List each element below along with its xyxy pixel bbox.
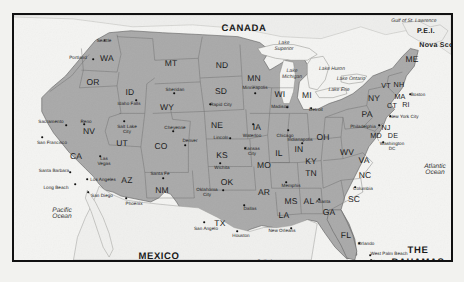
city-marker-waterloo bbox=[252, 123, 254, 125]
city-marker-san-francisco bbox=[41, 136, 43, 138]
city-marker-rapid-city bbox=[209, 103, 211, 105]
city-marker-santa-barbara bbox=[69, 171, 71, 173]
city-marker-columbia bbox=[354, 186, 356, 188]
city-marker-san-diego bbox=[87, 191, 89, 193]
city-marker-portland bbox=[92, 58, 94, 60]
city-marker-houston bbox=[236, 230, 238, 232]
city-marker-indianapolis bbox=[301, 142, 303, 144]
city-marker-madison bbox=[286, 106, 288, 108]
city-marker-detroit bbox=[310, 107, 312, 109]
city-marker-new-york-city bbox=[389, 115, 391, 117]
city-marker-santa-fe bbox=[162, 177, 164, 179]
city-marker-memphis bbox=[285, 181, 287, 183]
city-marker-boston bbox=[409, 93, 411, 95]
water-label-gulf-of-mexico: Gulf ofMexico bbox=[256, 260, 272, 262]
map-figure: CANADAMEXICOTHEBAHAMASP.E.I.Nova ScotiaG… bbox=[12, 13, 453, 262]
city-marker-sheridan bbox=[173, 92, 175, 94]
city-marker-sacramento bbox=[65, 124, 67, 126]
city-marker-denver bbox=[184, 144, 186, 146]
city-marker-wichita bbox=[219, 162, 221, 164]
map-canvas bbox=[14, 15, 451, 260]
city-marker-chicago bbox=[287, 129, 289, 131]
city-marker-las-vegas bbox=[99, 155, 101, 157]
city-marker-oklahoma-city bbox=[222, 189, 224, 191]
city-marker-long-beach bbox=[74, 183, 76, 185]
city-marker-miami bbox=[370, 259, 372, 261]
city-marker-seattle bbox=[104, 39, 106, 41]
city-marker-kansas-city bbox=[244, 147, 246, 149]
city-marker-philadelphia bbox=[378, 124, 380, 126]
city-marker-new-orleans bbox=[290, 227, 292, 229]
city-marker-atlanta bbox=[318, 198, 320, 200]
city-marker-idaho-falls bbox=[135, 99, 137, 101]
city-marker-phoenix bbox=[125, 197, 127, 199]
city-marker-dallas bbox=[243, 204, 245, 206]
city-marker-washington-dc bbox=[382, 141, 384, 143]
city-marker-los-angeles bbox=[86, 178, 88, 180]
city-marker-lincoln bbox=[229, 137, 231, 139]
city-marker-san-angelo bbox=[203, 221, 205, 223]
city-marker-minneapolis bbox=[254, 92, 256, 94]
city-marker-west-palm-beach bbox=[369, 254, 371, 256]
city-marker-salt-lake-city bbox=[123, 120, 125, 122]
city-marker-cheyenne bbox=[172, 130, 174, 132]
city-marker-reno bbox=[83, 123, 85, 125]
city-marker-orlando bbox=[358, 242, 360, 244]
